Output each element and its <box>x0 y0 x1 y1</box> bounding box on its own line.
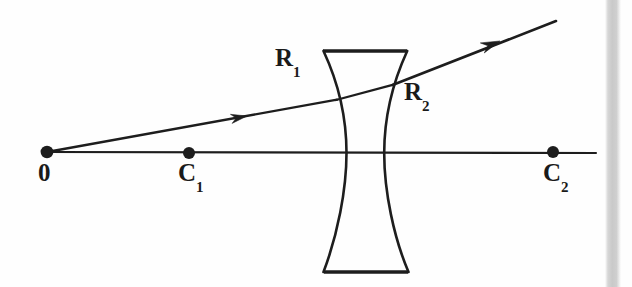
scan-page-edge-bar <box>605 0 621 287</box>
optical-axis-line <box>45 152 596 153</box>
label-center-two-text: C <box>543 159 561 186</box>
exit-ray <box>393 21 557 85</box>
label-radius-one-subscript: 1 <box>293 64 301 80</box>
lens-left-surface-R1 <box>324 51 347 272</box>
point-center-two <box>547 146 559 158</box>
point-origin <box>41 146 54 158</box>
exit-ray-segment <box>393 21 557 85</box>
label-center-one-text: C <box>178 159 196 186</box>
figure-canvas: 0 C1 C2 R1 R2 <box>0 0 632 287</box>
internal-ray-segment <box>336 85 394 100</box>
label-center-two-subscript: 2 <box>561 179 569 195</box>
label-origin: 0 <box>38 160 51 186</box>
label-center-one-subscript: 1 <box>196 179 204 195</box>
label-radius-two-subscript: 2 <box>422 98 430 114</box>
incident-ray <box>47 100 337 152</box>
label-radius-one: R1 <box>275 45 301 75</box>
ray-diagram <box>0 0 632 287</box>
incident-ray-segment <box>47 100 337 152</box>
label-origin-text: 0 <box>38 159 51 186</box>
label-radius-two: R2 <box>404 79 430 109</box>
point-center-one <box>183 147 195 159</box>
label-radius-two-text: R <box>404 78 422 105</box>
label-center-one: C1 <box>178 160 204 190</box>
label-radius-one-text: R <box>275 44 293 71</box>
label-center-two: C2 <box>543 160 569 190</box>
